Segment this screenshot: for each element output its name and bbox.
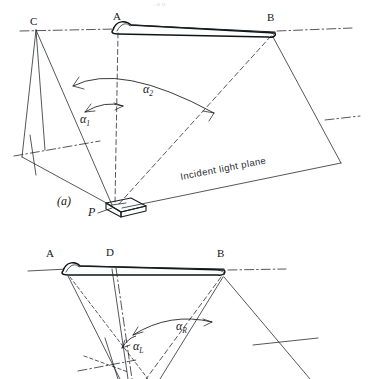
datum-line-left (20, 29, 117, 31)
construction-b-dashdot (78, 360, 136, 371)
annotation-incident-light-plane: Incident light plane (179, 155, 267, 182)
faint-header-text: . o o (153, 0, 166, 8)
arc-alpha1 (85, 104, 123, 112)
intersection-tick-vertical (30, 135, 36, 175)
label-alpha1: α1 (80, 112, 90, 128)
panel-a: C A B P α2 α1 Incident light plane (a) (14, 10, 360, 219)
diagram-canvas: . o o (0, 0, 373, 379)
ray-P-to-A-dashed (115, 33, 118, 204)
detector-top-detail (112, 203, 126, 205)
label-alpha2: α2 (143, 82, 153, 98)
ray-b-A-dashed (70, 277, 148, 379)
ray-b-B-solid (160, 277, 223, 379)
label-point-C: C (30, 15, 37, 27)
label-point-P: P (87, 205, 96, 219)
datum-line-b-left (28, 269, 68, 271)
label-alphaL: αL (133, 339, 143, 355)
figure-container: . o o (0, 0, 373, 379)
ray-b-A-solid (68, 276, 120, 379)
right-edge-tick (325, 116, 360, 120)
datum-line-right (277, 28, 352, 31)
construction-b-dashfine (84, 356, 128, 372)
plane-b-edge-right (224, 277, 310, 379)
label-point-A: A (113, 10, 121, 22)
plane-edge-right (273, 37, 341, 163)
panel-b: A D B αL αR (28, 246, 318, 379)
label-point-B: B (267, 11, 274, 23)
arrowhead-alpha2-right (203, 111, 214, 121)
label-b-point-D: D (106, 246, 114, 258)
plane-b-tick-right (253, 338, 318, 345)
construction-b-vertical (105, 338, 118, 379)
label-b-point-A: A (46, 247, 54, 259)
ray-P-to-B-dashed (118, 36, 271, 205)
label-b-point-B: B (217, 247, 224, 259)
ray-b-D-solid (112, 269, 128, 379)
caption-panel-a: (a) (57, 194, 71, 208)
ray-P-to-C (36, 30, 112, 205)
arrowhead-alpha2-left (73, 77, 84, 89)
label-alphaR: αR (176, 319, 187, 335)
light-strip-bar (112, 22, 275, 38)
plane-edge-left-upper (22, 30, 36, 157)
datum-line-b-right (228, 269, 286, 270)
arc-alphaR (133, 319, 212, 335)
